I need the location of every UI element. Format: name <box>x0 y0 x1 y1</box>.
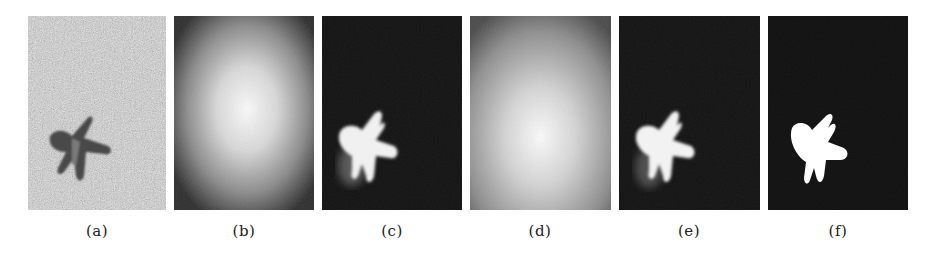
panel-a-input-image <box>28 16 166 210</box>
caption-c: (c) <box>322 222 462 240</box>
caption-e: (e) <box>619 222 759 240</box>
panel-e-refined-saliency <box>619 16 760 210</box>
caption-f: (f) <box>768 222 908 240</box>
panel-d-object-prior <box>470 16 611 210</box>
panel-b-center-prior <box>174 16 314 210</box>
panel-c-saliency-map <box>322 16 462 210</box>
panel-f-ground-truth <box>768 16 908 210</box>
caption-a: (a) <box>27 222 167 240</box>
caption-d: (d) <box>470 222 610 240</box>
caption-b: (b) <box>174 222 314 240</box>
